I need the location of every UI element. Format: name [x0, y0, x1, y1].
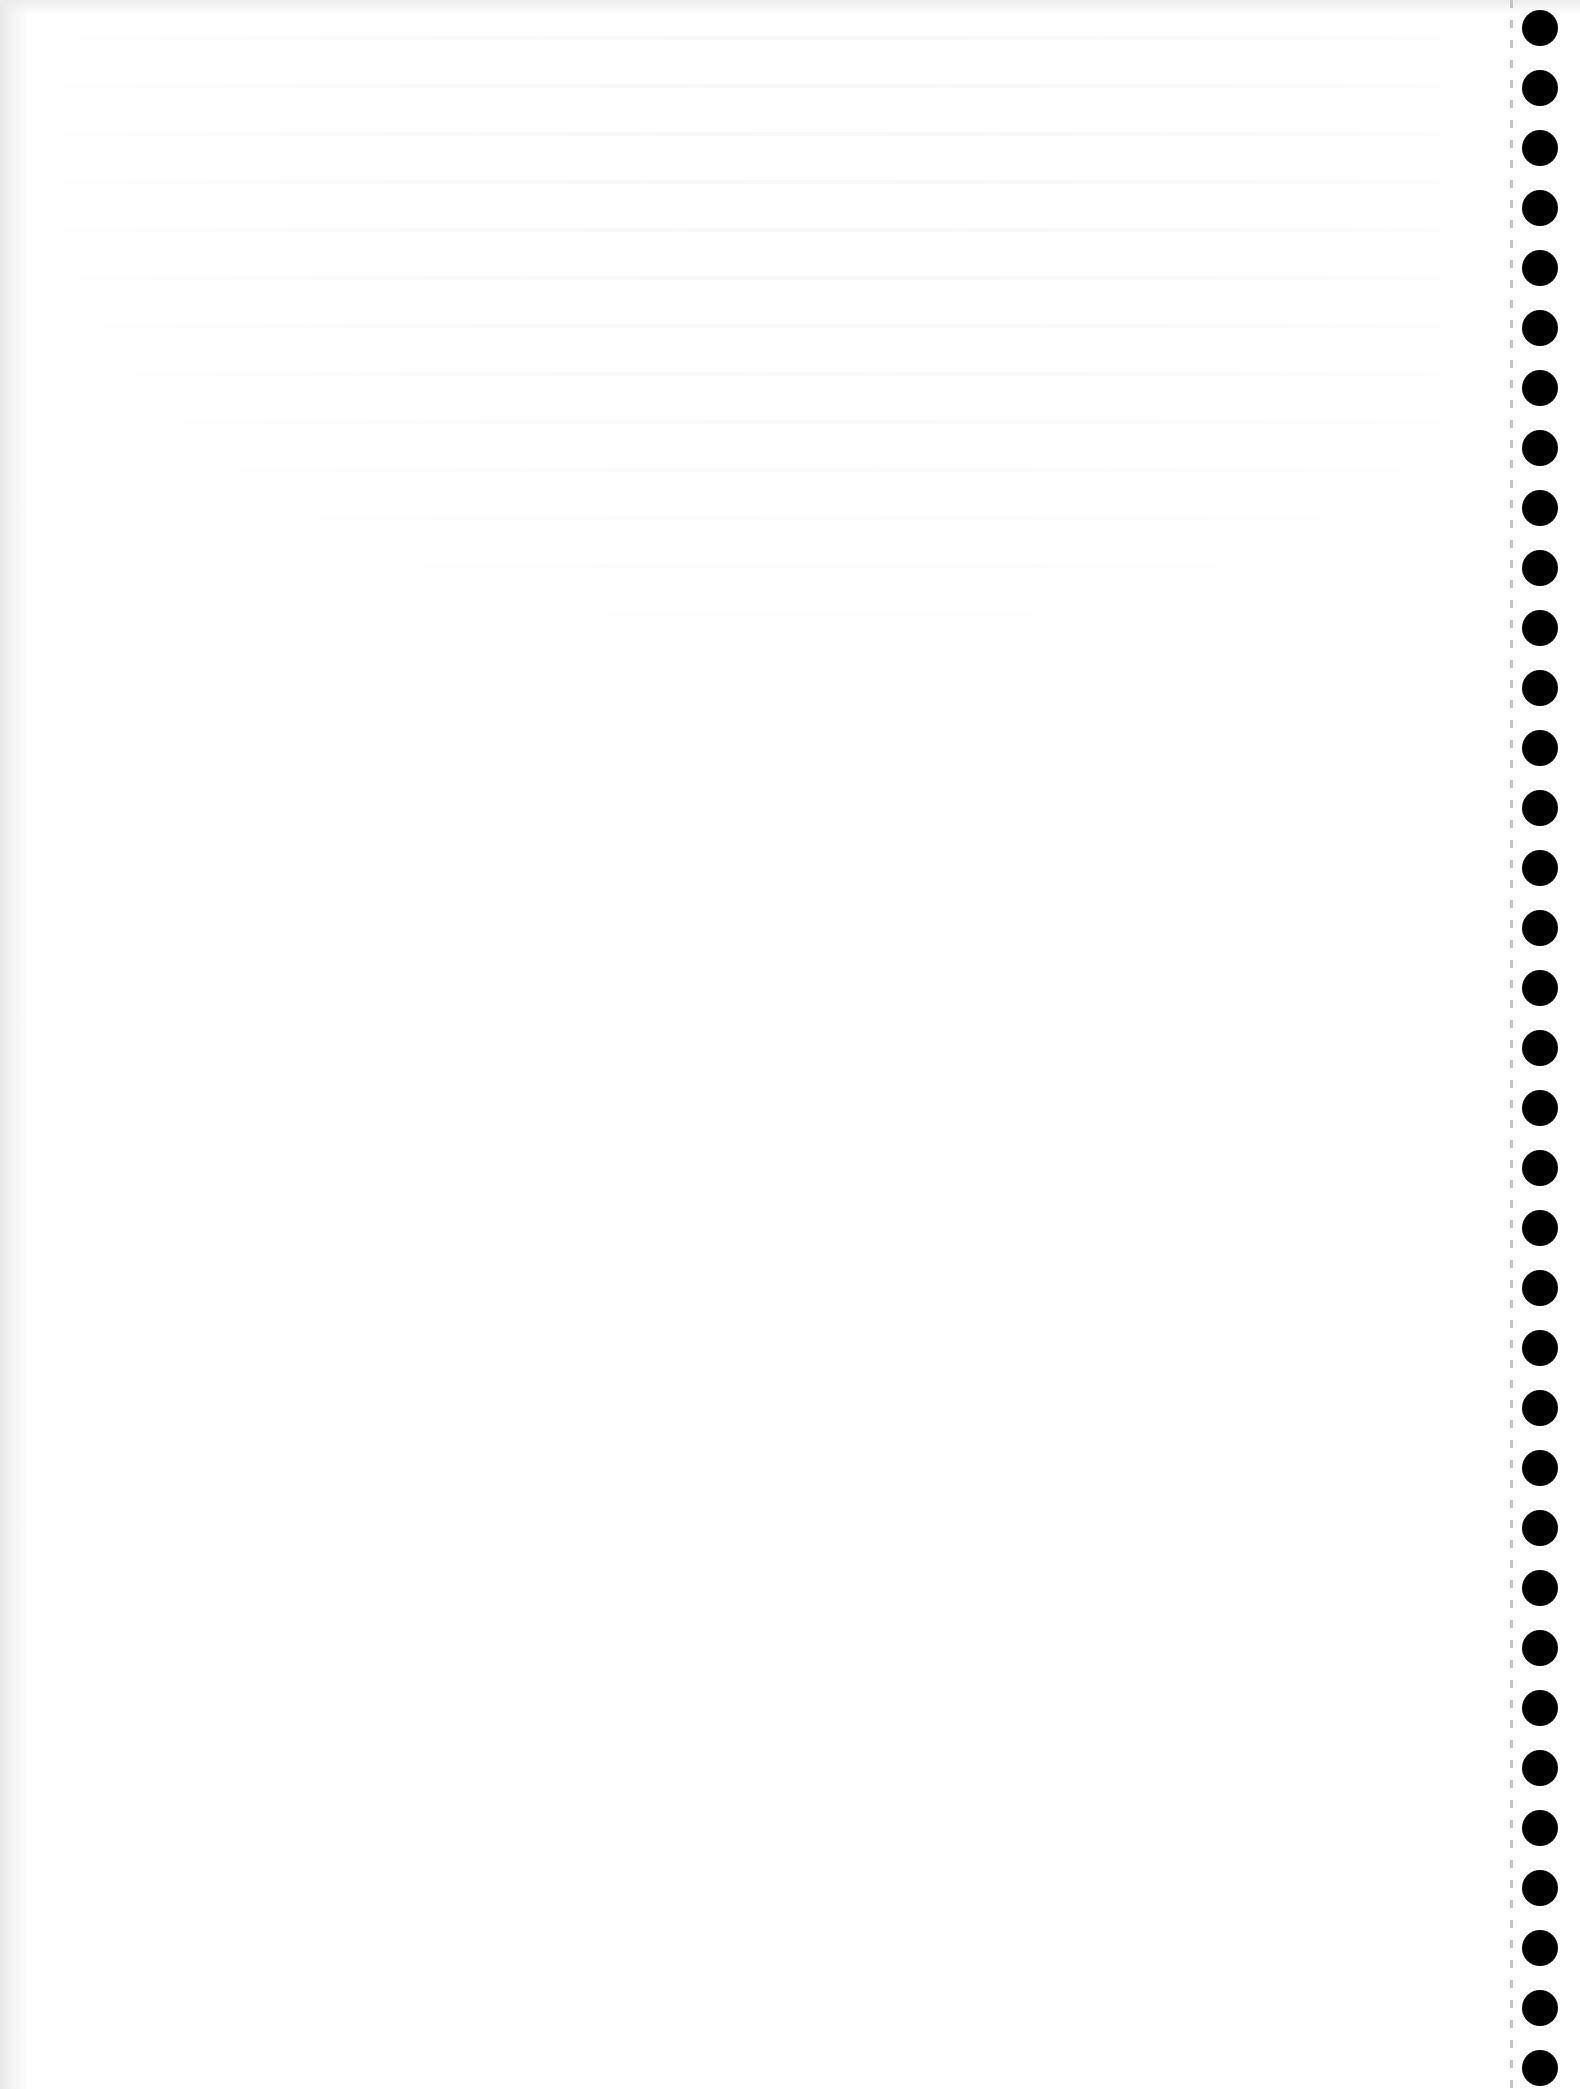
- sprocket-hole: [1522, 730, 1558, 766]
- sprocket-hole: [1522, 1750, 1558, 1786]
- sprocket-hole: [1522, 70, 1558, 106]
- sprocket-hole: [1522, 1570, 1558, 1606]
- sprocket-hole: [1522, 670, 1558, 706]
- sprocket-hole: [1522, 850, 1558, 886]
- sprocket-hole: [1522, 2050, 1558, 2086]
- sprocket-hole: [1522, 1330, 1558, 1366]
- sprocket-hole: [1522, 790, 1558, 826]
- perforation-tear-line: [1510, 0, 1513, 2089]
- sprocket-hole: [1522, 1090, 1558, 1126]
- sprocket-hole: [1522, 1030, 1558, 1066]
- tractor-feed-strip: [1500, 0, 1580, 2089]
- sprocket-hole: [1522, 1870, 1558, 1906]
- sprocket-hole: [1522, 1690, 1558, 1726]
- sprocket-hole: [1522, 1630, 1558, 1666]
- bleed-through-texture: [60, 10, 1440, 630]
- sprocket-hole: [1522, 910, 1558, 946]
- sprocket-hole: [1522, 1390, 1558, 1426]
- sprocket-hole: [1522, 430, 1558, 466]
- sprocket-hole: [1522, 370, 1558, 406]
- sprocket-hole: [1522, 550, 1558, 586]
- sprocket-hole: [1522, 250, 1558, 286]
- sprocket-hole: [1522, 310, 1558, 346]
- sprocket-hole: [1522, 1510, 1558, 1546]
- scan-shadow-left: [0, 0, 28, 2089]
- sprocket-hole: [1522, 190, 1558, 226]
- sprocket-hole: [1522, 490, 1558, 526]
- sprocket-hole: [1522, 610, 1558, 646]
- sprocket-hole: [1522, 1450, 1558, 1486]
- sprocket-hole: [1522, 130, 1558, 166]
- sprocket-hole: [1522, 970, 1558, 1006]
- sprocket-hole: [1522, 1930, 1558, 1966]
- sprocket-hole: [1522, 1990, 1558, 2026]
- sprocket-hole: [1522, 1810, 1558, 1846]
- sprocket-hole: [1522, 1150, 1558, 1186]
- sprocket-hole: [1522, 1210, 1558, 1246]
- sprocket-hole: [1522, 10, 1558, 46]
- sprocket-hole: [1522, 1270, 1558, 1306]
- paper-sheet: [0, 0, 1580, 2089]
